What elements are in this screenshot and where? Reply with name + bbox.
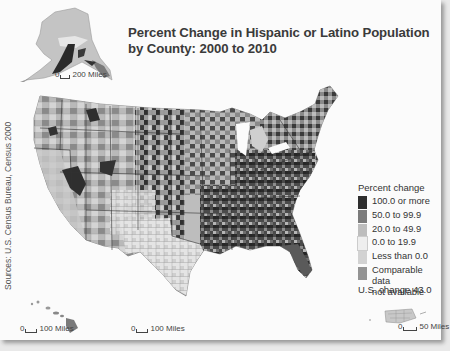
legend-swatch <box>358 267 367 280</box>
hawaii-scale-bar: 0100 Miles <box>20 324 74 333</box>
continental-scale-bar: 0100 Miles <box>131 324 185 333</box>
legend: Percent change 100.0 or more 50.0 to 99.… <box>358 182 441 289</box>
puerto-rico-scale-bar: 050 Miles <box>398 322 449 331</box>
puerto-rico-inset <box>369 309 426 323</box>
legend-title: Percent change <box>358 182 441 193</box>
legend-item: 100.0 or more <box>358 196 441 210</box>
scale-label: 100 Miles <box>150 324 184 333</box>
scale-zero: 0 <box>398 322 402 331</box>
legend-swatch <box>358 224 367 237</box>
legend-label: Less than 0.0 <box>372 251 428 262</box>
legend-item: 50.0 to 99.9 <box>358 210 441 224</box>
legend-label: 0.0 to 19.9 <box>372 237 416 248</box>
scale-label: 200 Miles <box>72 70 106 79</box>
scale-zero: 0 <box>55 70 59 79</box>
map-page: Percent Change in Hispanic or Latino Pop… <box>0 0 441 340</box>
scale-zero: 0 <box>20 324 24 333</box>
scale-label: 50 Miles <box>419 322 449 331</box>
legend-swatch <box>358 196 367 209</box>
us-change-note: U.S. change 43.0 <box>358 284 431 295</box>
scale-zero: 0 <box>131 324 135 333</box>
legend-item: 0.0 to 19.9 <box>358 237 441 251</box>
scale-label: 100 Miles <box>39 324 73 333</box>
legend-swatch <box>358 210 367 223</box>
legend-label: 100.0 or more <box>372 196 430 207</box>
legend-swatch <box>358 237 367 250</box>
continental-us <box>30 85 340 296</box>
legend-item: Less than 0.0 <box>358 251 441 265</box>
legend-label: 20.0 to 49.9 <box>372 224 421 235</box>
legend-swatch <box>358 251 367 264</box>
alaska-scale-bar: 0200 Miles <box>55 70 107 79</box>
legend-label: 50.0 to 99.9 <box>372 210 421 221</box>
legend-item: 20.0 to 49.9 <box>358 224 441 238</box>
